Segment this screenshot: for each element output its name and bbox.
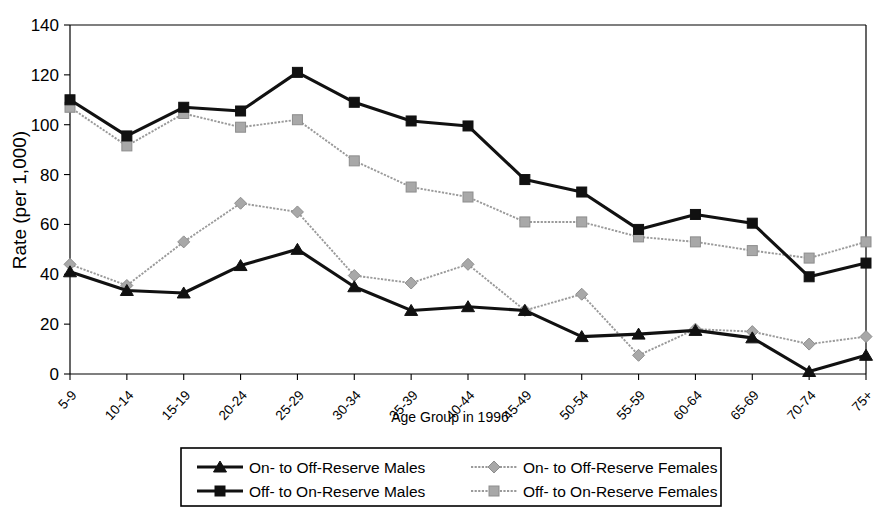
data-point — [804, 272, 814, 282]
data-point — [861, 237, 871, 247]
x-tick-label: 15-19 — [159, 387, 194, 422]
data-point — [236, 122, 246, 132]
data-point — [747, 218, 757, 228]
x-tick-label: 20-24 — [216, 387, 251, 423]
x-tick-label: 60-64 — [671, 387, 706, 423]
data-point — [291, 243, 304, 254]
y-tick-label: 20 — [40, 315, 59, 334]
data-point — [577, 217, 587, 227]
x-tick-label: 5-9 — [55, 387, 79, 412]
data-point — [406, 182, 416, 192]
data-point — [577, 187, 587, 197]
data-point — [235, 197, 247, 209]
data-point — [65, 95, 75, 105]
data-point — [463, 192, 473, 202]
x-tick-label: 75+ — [849, 387, 876, 414]
x-tick-label: 50-54 — [557, 387, 592, 423]
data-point — [690, 209, 700, 219]
y-tick-label: 80 — [40, 166, 59, 185]
x-tick-label: 30-34 — [329, 387, 364, 423]
data-series-group — [64, 67, 873, 376]
legend-marker — [489, 486, 499, 496]
y-tick-label: 140 — [31, 16, 59, 35]
data-point — [803, 338, 815, 350]
y-axis-title: Rate (per 1,000) — [9, 131, 30, 269]
data-point — [292, 115, 302, 125]
data-point — [690, 237, 700, 247]
data-point — [349, 156, 359, 166]
data-point — [179, 102, 189, 112]
data-point — [463, 121, 473, 131]
data-point — [520, 217, 530, 227]
data-point — [122, 141, 132, 151]
data-point — [236, 106, 246, 116]
chart-figure: 020406080100120140 5-910-1415-1920-2425-… — [0, 0, 894, 520]
data-point — [747, 246, 757, 256]
data-point — [860, 349, 873, 360]
chart-legend: On- to Off-Reserve MalesOff- to On-Reser… — [181, 448, 721, 506]
y-tick-label: 60 — [40, 215, 59, 234]
data-point — [860, 331, 872, 343]
data-point — [122, 131, 132, 141]
legend-label: Off- to On-Reserve Females — [523, 483, 718, 500]
legend-label: Off- to On-Reserve Males — [249, 483, 426, 500]
data-point — [292, 67, 302, 77]
data-point — [462, 258, 474, 270]
data-point — [405, 277, 417, 289]
x-tick-label: 55-59 — [614, 387, 649, 422]
x-axis-title: Age Group in 1996 — [391, 409, 509, 425]
data-point — [64, 266, 77, 277]
data-point — [634, 224, 644, 234]
data-point — [520, 175, 530, 185]
x-tick-label: 10-14 — [102, 387, 137, 423]
y-tick-label: 120 — [31, 66, 59, 85]
y-tick-label: 100 — [31, 116, 59, 135]
series-line — [70, 72, 866, 276]
data-point — [804, 253, 814, 263]
x-tick-label: 25-29 — [273, 387, 308, 422]
legend-marker — [215, 486, 225, 496]
data-point — [861, 258, 871, 268]
legend-label: On- to Off-Reserve Males — [249, 459, 426, 476]
x-axis — [70, 374, 866, 380]
x-tick-label: 70-74 — [784, 387, 819, 423]
x-tick-label: 65-69 — [727, 387, 762, 422]
legend-label: On- to Off-Reserve Females — [523, 459, 718, 476]
data-point — [349, 97, 359, 107]
migration-rate-line-chart: 020406080100120140 5-910-1415-1920-2425-… — [0, 0, 894, 520]
data-point — [406, 116, 416, 126]
y-tick-label: 0 — [50, 365, 59, 384]
data-point — [348, 270, 360, 282]
y-tick-label: 40 — [40, 265, 59, 284]
y-axis: 020406080100120140 — [31, 16, 70, 384]
